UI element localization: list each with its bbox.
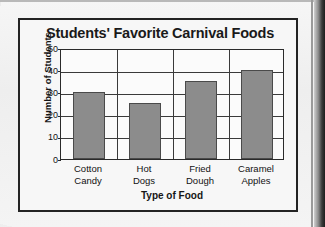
scanned-page: Students' Favorite Carnival Foods Number… bbox=[0, 0, 325, 227]
x-category-label-line: Candy bbox=[60, 175, 116, 187]
y-axis-ticks: 01020304050 bbox=[32, 49, 58, 160]
category-divider-1 bbox=[117, 50, 118, 159]
y-tick-label-40: 40 bbox=[36, 67, 58, 76]
x-category-label-line: Caramel bbox=[228, 163, 284, 175]
bar-caramel-apples bbox=[241, 70, 273, 159]
plot-area bbox=[60, 49, 284, 160]
x-category-label-line: Cotton bbox=[60, 163, 116, 175]
y-tick-label-30: 30 bbox=[36, 89, 58, 98]
x-category-label-line: Dogs bbox=[116, 175, 172, 187]
x-axis-category-labels: CottonCandyHotDogsFriedDoughCaramelApple… bbox=[60, 163, 284, 189]
bar-fried-dough bbox=[185, 81, 217, 159]
x-category-label-line: Dough bbox=[172, 175, 228, 187]
chart-figure-box: Students' Favorite Carnival Foods Number… bbox=[18, 18, 298, 212]
x-category-label-hot-dogs: HotDogs bbox=[116, 163, 172, 186]
y-tick-label-0: 0 bbox=[36, 156, 58, 165]
bar-cotton-candy bbox=[73, 92, 105, 159]
chart-title: Students' Favorite Carnival Foods bbox=[20, 25, 300, 41]
bar-hot-dogs bbox=[129, 103, 161, 159]
y-tick-label-50: 50 bbox=[36, 45, 58, 54]
page-edge-line bbox=[311, 0, 313, 227]
y-tick-label-10: 10 bbox=[36, 133, 58, 142]
x-category-label-cotton-candy: CottonCandy bbox=[60, 163, 116, 186]
y-tick-mark-0 bbox=[58, 160, 61, 161]
x-category-label-line: Apples bbox=[228, 175, 284, 187]
x-category-label-fried-dough: FriedDough bbox=[172, 163, 228, 186]
x-category-label-line: Fried bbox=[172, 163, 228, 175]
x-category-label-line: Hot bbox=[116, 163, 172, 175]
x-axis-title: Type of Food bbox=[60, 190, 284, 201]
scan-top-rule bbox=[0, 0, 325, 2]
page-edge-band bbox=[314, 0, 325, 227]
category-divider-3 bbox=[229, 50, 230, 159]
plot-inner bbox=[61, 50, 283, 159]
category-divider-2 bbox=[173, 50, 174, 159]
x-category-label-caramel-apples: CaramelApples bbox=[228, 163, 284, 186]
y-tick-label-20: 20 bbox=[36, 111, 58, 120]
